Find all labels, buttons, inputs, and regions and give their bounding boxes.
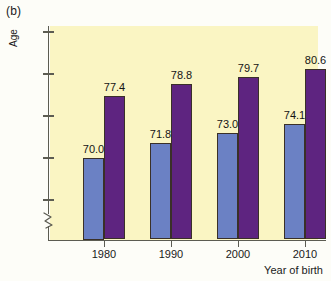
y-tick-mark <box>43 115 54 116</box>
y-axis-line-upper <box>48 26 49 214</box>
bar-value-label: 77.4 <box>93 81 137 93</box>
bar-value-label: 79.7 <box>227 62 271 74</box>
x-tick-mark-1980 <box>104 240 105 247</box>
bar-2010-series-2 <box>305 69 326 240</box>
x-axis-title: Year of birth <box>264 264 323 276</box>
y-axis-title: Age <box>8 18 19 58</box>
bar-1990-series-2 <box>171 84 192 239</box>
x-tick-label-1980: 1980 <box>74 248 134 260</box>
x-tick-label-2010: 2010 <box>275 248 331 260</box>
x-tick-mark-2000 <box>238 240 239 247</box>
bar-2000-series-2 <box>238 77 259 240</box>
y-tick-mark <box>43 157 54 158</box>
bar-value-label: 78.8 <box>160 69 204 81</box>
y-tick-mark <box>43 73 54 74</box>
figure-panel: (b) Age 6570758085 0 1980199020002010 70… <box>0 0 331 281</box>
bar-1990-series-1 <box>150 143 171 240</box>
x-tick-label-2000: 2000 <box>208 248 268 260</box>
x-tick-mark-2010 <box>305 240 306 247</box>
bar-1980-series-2 <box>104 96 125 240</box>
x-axis-line <box>48 240 326 241</box>
bar-1980-series-1 <box>83 158 104 240</box>
panel-label: (b) <box>6 4 21 18</box>
bar-2010-series-1 <box>284 124 305 240</box>
y-tick-mark <box>43 199 54 200</box>
bar-value-label: 80.6 <box>294 54 331 66</box>
y-tick-mark <box>43 31 54 32</box>
bar-2000-series-1 <box>217 133 238 240</box>
x-tick-mark-1990 <box>171 240 172 247</box>
axis-break-icon <box>42 211 58 229</box>
x-tick-label-1990: 1990 <box>141 248 201 260</box>
